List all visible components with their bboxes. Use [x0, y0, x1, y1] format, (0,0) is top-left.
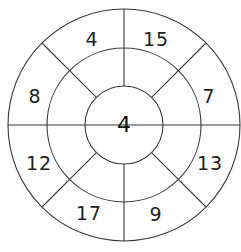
outer-cell-bottom-left: 17 [76, 202, 102, 224]
outer-cell-top-left: 4 [85, 28, 98, 50]
spoke-diagonal-nw [42, 43, 96, 97]
outer-cell-top-right: 15 [143, 28, 169, 50]
outer-cell-bottom-right: 9 [149, 203, 162, 225]
outer-cell-right-upper: 7 [202, 85, 215, 107]
outer-cell-left-lower: 12 [26, 152, 52, 174]
center-cell-number: 4 [117, 112, 131, 137]
outer-cell-left-upper: 8 [28, 85, 41, 107]
number-wheel-svg: 4 15 8 7 12 13 17 9 4 [0, 0, 241, 252]
outer-cell-right-lower: 13 [197, 152, 223, 174]
wheel-diagram-container: 4 15 8 7 12 13 17 9 4 [0, 0, 241, 252]
spoke-diagonal-ne [152, 43, 206, 97]
